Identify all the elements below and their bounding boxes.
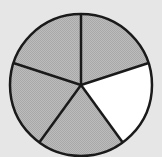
pie-figure	[0, 0, 162, 157]
fraction-circle-diagram	[0, 0, 162, 157]
